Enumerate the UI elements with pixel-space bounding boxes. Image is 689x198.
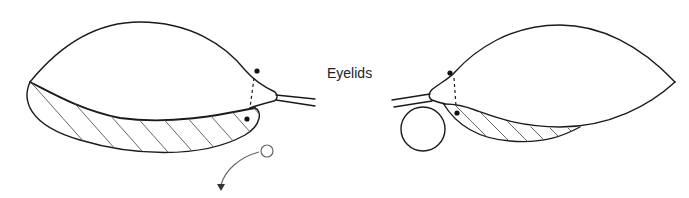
left-upper-globe-outline xyxy=(30,22,277,108)
left-small-circle xyxy=(261,145,273,157)
left-canaliculus-upper xyxy=(276,95,315,99)
right-canaliculus-upper xyxy=(392,94,430,100)
right-large-circle xyxy=(401,107,445,151)
left-dashed-line xyxy=(250,78,254,108)
right-eye-figure xyxy=(392,25,675,151)
left-punctum-dot-upper xyxy=(254,68,259,73)
right-upper-globe-outline xyxy=(429,25,675,104)
right-dashed-line xyxy=(454,78,456,106)
right-punctum-dot-lower xyxy=(454,110,459,115)
eyelids-label: Eyelids xyxy=(327,65,372,81)
right-lower-globe-outline xyxy=(445,82,675,127)
left-curved-arrow xyxy=(221,152,259,185)
left-punctum-dot-lower xyxy=(244,116,249,121)
left-eye-figure xyxy=(20,22,325,191)
left-eyelid-hatching xyxy=(20,70,325,160)
left-canaliculus-lower xyxy=(276,100,315,106)
right-lower-eyelid-outer xyxy=(443,103,580,142)
right-punctum-dot-upper xyxy=(447,70,452,75)
arrow-head-icon xyxy=(217,184,225,191)
eyelid-diagram xyxy=(0,0,689,198)
left-lower-eyelid-inner xyxy=(30,82,255,120)
right-canaliculus-lower xyxy=(394,101,432,107)
